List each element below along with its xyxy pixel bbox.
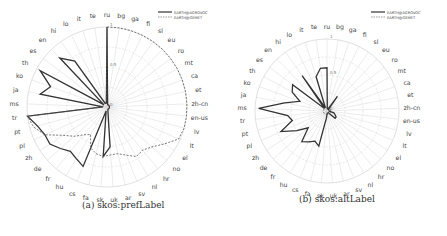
axis-label-fi: fi <box>363 31 367 38</box>
axis-label-et: et <box>195 86 202 93</box>
axis-label-te: te <box>90 12 96 19</box>
axis-label-ko: ko <box>16 72 23 79</box>
axis-label-ms: ms <box>9 100 18 107</box>
axis-label-ga: ga <box>349 26 357 34</box>
axis-label-lo: lo <box>287 31 293 38</box>
axis-label-ro: ro <box>178 47 184 54</box>
axis-label-es: es <box>30 47 37 54</box>
axis-label-lt: lt <box>190 142 195 149</box>
axis-label-tr: tr <box>12 114 17 121</box>
chart-caption: (a) skos:prefLabel <box>82 200 164 210</box>
axis-label-lv: lv <box>406 130 412 137</box>
axis-label-sl: sl <box>158 27 163 34</box>
radial-tick-label: 1 <box>330 34 333 39</box>
radial-tick-label: 1 <box>110 22 113 27</box>
axis-label-eu: eu <box>168 36 176 43</box>
radial-tick-label: 0.5 <box>110 62 117 67</box>
axis-label-el: el <box>182 154 188 161</box>
axis-label-it: it <box>299 26 304 33</box>
chart-caption: (b) skos:altLabel <box>299 194 375 204</box>
axis-label-hr: hr <box>378 173 385 180</box>
axis-label-pl: pl <box>247 142 253 150</box>
radar-grid <box>255 39 399 183</box>
axis-label-fr: fr <box>45 175 50 182</box>
axis-label-ru: ru <box>324 23 331 30</box>
axis-label-tr: tr <box>240 117 245 124</box>
axis-label-ro: ro <box>391 56 397 63</box>
axis-label-nl: nl <box>368 181 374 188</box>
axis-label-pt: pt <box>14 128 21 136</box>
axis-label-sl: sl <box>373 38 378 45</box>
radar-chart-altlabel: rubggafisleuromtcaetzh-cnen-uslvltelnohr… <box>223 0 447 236</box>
radial-tick-label: 0.5 <box>330 70 337 75</box>
axis-label-zh: zh <box>25 154 32 161</box>
axis-label-et: et <box>407 91 414 98</box>
chart-legend: EARTH@AGROVOCEARTH@GEMET <box>371 11 421 20</box>
axis-label-en-us: en-us <box>403 117 420 124</box>
axis-label-ga: ga <box>131 15 139 23</box>
series-earth-agrovoc <box>259 68 338 146</box>
axis-label-ca: ca <box>403 79 410 86</box>
axis-label-hu: hu <box>280 181 288 188</box>
legend-entry-label: EARTH@AGROVOC <box>387 11 421 15</box>
chart-legend: EARTH@AGROVOCEARTH@GEMET <box>158 11 208 20</box>
axis-label-ru: ru <box>104 11 111 18</box>
axis-label-fr: fr <box>271 173 276 180</box>
axis-label-lo: lo <box>63 20 69 27</box>
axis-label-sv: sv <box>138 190 145 197</box>
axis-label-hi: hi <box>51 27 57 34</box>
axis-label-en: en <box>264 46 272 53</box>
axis-label-bg: bg <box>336 23 344 31</box>
axis-label-ja: ja <box>240 91 247 99</box>
axis-label-cs: cs <box>69 190 76 197</box>
axis-label-pt: pt <box>242 130 249 138</box>
axis-label-nl: nl <box>152 183 158 190</box>
axis-label-ms: ms <box>237 104 246 111</box>
legend-entry-label: EARTH@GEMET <box>174 16 203 20</box>
axis-label-pl: pl <box>19 142 25 150</box>
axis-label-sv: sv <box>355 186 362 193</box>
axis-label-zh: zh <box>252 154 259 161</box>
axis-label-lt: lt <box>402 142 407 149</box>
axis-label-cs: cs <box>292 186 299 193</box>
axis-label-en: en <box>39 36 47 43</box>
axis-label-en-us: en-us <box>191 114 208 121</box>
axis-label-de: de <box>34 165 42 172</box>
axis-label-hr: hr <box>163 175 170 182</box>
axis-label-no: no <box>173 165 181 172</box>
axis-label-th: th <box>249 67 255 74</box>
axis-label-zh-cn: zh-cn <box>404 104 421 111</box>
legend-entry-label: EARTH@AGROVOC <box>174 11 208 15</box>
axis-label-de: de <box>260 164 268 171</box>
axis-label-ja: ja <box>12 86 19 94</box>
axis-label-mt: mt <box>397 67 406 74</box>
axis-label-hi: hi <box>275 38 281 45</box>
axis-label-zh-cn: zh-cn <box>192 100 209 107</box>
axis-label-te: te <box>311 23 317 30</box>
axis-label-lv: lv <box>194 128 200 135</box>
axis-label-fi: fi <box>146 20 150 27</box>
axis-label-el: el <box>396 154 402 161</box>
axis-label-hu: hu <box>56 183 64 190</box>
axis-label-bg: bg <box>117 12 125 20</box>
axis-label-ko: ko <box>243 79 250 86</box>
axis-label-ca: ca <box>191 72 198 79</box>
axis-label-th: th <box>22 59 28 66</box>
legend-entry-label: EARTH@GEMET <box>387 16 416 20</box>
axis-label-mt: mt <box>184 59 193 66</box>
axis-label-no: no <box>387 164 395 171</box>
axis-label-it: it <box>77 15 82 22</box>
axis-label-eu: eu <box>382 46 390 53</box>
axis-label-es: es <box>256 56 263 63</box>
radar-chart-preflabel: rubggafisleuromtcaetzh-cnen-uslvltelnohr… <box>0 0 224 236</box>
